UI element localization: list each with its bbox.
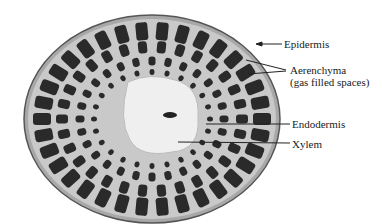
label-epidermis: Epidermis xyxy=(284,38,329,50)
micrograph xyxy=(0,0,382,224)
root-cross-section-figure: Epidermis Aerenchyma (gas filled spaces)… xyxy=(0,0,382,224)
label-aerenchyma-note: (gas filled spaces) xyxy=(290,76,369,88)
central-xylem-vessel xyxy=(163,112,177,118)
label-endodermis: Endodermis xyxy=(292,118,345,130)
label-aerenchyma: Aerenchyma xyxy=(290,64,346,76)
label-xylem: Xylem xyxy=(292,138,322,150)
